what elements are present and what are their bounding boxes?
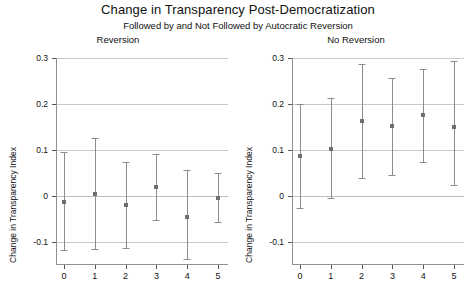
x-tick-label-3: 3 xyxy=(154,271,159,281)
x-tick-label-1: 1 xyxy=(92,271,97,281)
error-cap-upper-5 xyxy=(451,61,458,62)
error-cap-lower-1 xyxy=(327,198,334,199)
x-tick-label-0: 0 xyxy=(61,271,66,281)
data-point-5 xyxy=(452,125,456,129)
y-tick-label-0.3: 0.3 xyxy=(18,53,48,63)
y-tick-label-0.3: 0.3 xyxy=(254,53,284,63)
data-point-1 xyxy=(329,147,333,151)
error-cap-upper-1 xyxy=(327,98,334,99)
data-point-2 xyxy=(360,119,364,123)
gridline-0.3 xyxy=(56,58,228,59)
y-axis-line xyxy=(292,58,293,264)
data-point-2 xyxy=(124,203,128,207)
chart-figure: Change in Transparency Post-Democratizat… xyxy=(0,0,476,296)
gridline--0.1 xyxy=(56,242,228,243)
data-point-1 xyxy=(93,192,97,196)
gridline--0.1 xyxy=(292,242,464,243)
error-cap-upper-2 xyxy=(122,162,129,163)
error-cap-lower-4 xyxy=(184,259,191,260)
plot-area-reversion: 0.30.20.10-0.1Change in Transparency Ind… xyxy=(0,0,236,296)
x-tick-1 xyxy=(331,265,332,269)
error-cap-upper-1 xyxy=(91,138,98,139)
x-axis-line xyxy=(292,264,464,265)
panel-reversion: Reversion 0.30.20.10-0.1Change in Transp… xyxy=(0,0,236,296)
gridline-0.2 xyxy=(56,104,228,105)
data-point-3 xyxy=(154,185,158,189)
error-cap-lower-0 xyxy=(297,208,304,209)
gridline-0.2 xyxy=(292,104,464,105)
error-cap-lower-2 xyxy=(122,248,129,249)
error-cap-lower-5 xyxy=(215,222,222,223)
error-cap-lower-3 xyxy=(153,220,160,221)
x-tick-3 xyxy=(156,265,157,269)
error-cap-upper-5 xyxy=(215,173,222,174)
y-axis-title: Change in Transparency Index xyxy=(244,147,254,263)
x-tick-label-1: 1 xyxy=(328,271,333,281)
x-tick-4 xyxy=(187,265,188,269)
error-cap-upper-0 xyxy=(297,104,304,105)
error-bar-5 xyxy=(454,61,455,185)
error-cap-lower-4 xyxy=(420,162,427,163)
panel-no-reversion: No Reversion 0.30.20.10-0.1Change in Tra… xyxy=(236,0,476,296)
x-axis-line xyxy=(56,264,228,265)
plot-area-no-reversion: 0.30.20.10-0.1Change in Transparency Ind… xyxy=(236,0,476,296)
y-tick-label--0.1: -0.1 xyxy=(18,237,48,247)
y-tick-label-0: 0 xyxy=(254,191,284,201)
error-cap-upper-2 xyxy=(358,64,365,65)
x-tick-label-3: 3 xyxy=(390,271,395,281)
y-tick-label-0.2: 0.2 xyxy=(254,99,284,109)
error-cap-upper-3 xyxy=(153,154,160,155)
error-cap-upper-4 xyxy=(184,170,191,171)
gridline-0.1 xyxy=(292,150,464,151)
gridline-0.1 xyxy=(56,150,228,151)
x-tick-label-5: 5 xyxy=(451,271,456,281)
error-cap-lower-5 xyxy=(451,185,458,186)
data-point-5 xyxy=(216,196,220,200)
data-point-0 xyxy=(62,200,66,204)
y-tick-label--0.1: -0.1 xyxy=(254,237,284,247)
x-tick-1 xyxy=(95,265,96,269)
x-tick-label-2: 2 xyxy=(123,271,128,281)
x-tick-label-5: 5 xyxy=(215,271,220,281)
y-tick-label-0.1: 0.1 xyxy=(254,145,284,155)
y-tick-label-0: 0 xyxy=(18,191,48,201)
x-tick-label-2: 2 xyxy=(359,271,364,281)
gridline-0 xyxy=(292,196,464,197)
error-cap-lower-3 xyxy=(389,175,396,176)
error-cap-upper-3 xyxy=(389,78,396,79)
x-tick-label-4: 4 xyxy=(185,271,190,281)
y-axis-title: Change in Transparency Index xyxy=(8,147,18,263)
y-axis-line xyxy=(56,58,57,264)
error-cap-upper-4 xyxy=(420,69,427,70)
x-tick-label-0: 0 xyxy=(297,271,302,281)
data-point-4 xyxy=(185,215,189,219)
error-cap-lower-1 xyxy=(91,249,98,250)
x-tick-3 xyxy=(392,265,393,269)
gridline-0 xyxy=(56,196,228,197)
x-tick-2 xyxy=(126,265,127,269)
x-tick-2 xyxy=(362,265,363,269)
data-point-3 xyxy=(390,124,394,128)
data-point-4 xyxy=(421,113,425,117)
y-tick-label-0.2: 0.2 xyxy=(18,99,48,109)
error-cap-upper-0 xyxy=(61,152,68,153)
error-cap-lower-2 xyxy=(358,178,365,179)
x-tick-0 xyxy=(300,265,301,269)
y-tick-label-0.1: 0.1 xyxy=(18,145,48,155)
gridline-0.3 xyxy=(292,58,464,59)
x-tick-0 xyxy=(64,265,65,269)
x-tick-label-4: 4 xyxy=(421,271,426,281)
data-point-0 xyxy=(298,154,302,158)
x-tick-5 xyxy=(454,265,455,269)
x-tick-4 xyxy=(423,265,424,269)
error-cap-lower-0 xyxy=(61,250,68,251)
x-tick-5 xyxy=(218,265,219,269)
